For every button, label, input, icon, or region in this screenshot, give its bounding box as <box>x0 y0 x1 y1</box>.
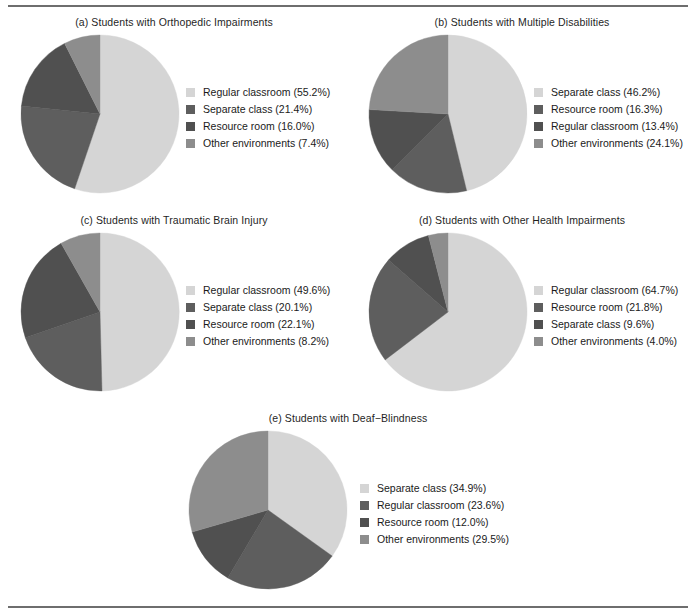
legend-item-label: Other environments (29.5%) <box>377 534 509 545</box>
legend-swatch-icon <box>534 105 543 114</box>
legend-item[interactable]: Regular classroom (64.7%) <box>534 282 678 299</box>
legend-swatch-icon <box>534 303 543 312</box>
panel-title-a: (a) Students with Orthopedic Impairments <box>0 16 348 28</box>
legend-item-label: Regular classroom (64.7%) <box>551 285 678 296</box>
pie-panel-b: (b) Students with Multiple DisabilitiesS… <box>348 16 696 206</box>
pie-chart-a <box>0 32 185 196</box>
legend-swatch-icon <box>186 337 195 346</box>
legend-item[interactable]: Regular classroom (49.6%) <box>186 282 330 299</box>
legend-item[interactable]: Separate class (46.2%) <box>534 84 683 101</box>
legend-item[interactable]: Separate class (9.6%) <box>534 316 678 333</box>
top-divider-rule <box>8 5 688 7</box>
pie-slice <box>369 35 448 114</box>
legend-e: Separate class (34.9%)Regular classroom … <box>360 480 509 548</box>
panel-title-d: (d) Students with Other Health Impairmen… <box>348 214 696 226</box>
pie-panel-e: (e) Students with Deaf−BlindnessSeparate… <box>174 412 522 602</box>
legend-item-label: Resource room (16.3%) <box>551 104 662 115</box>
legend-swatch-icon <box>186 286 195 295</box>
legend-swatch-icon <box>534 286 543 295</box>
bottom-divider-rule <box>8 606 688 608</box>
legend-item[interactable]: Regular classroom (23.6%) <box>360 497 509 514</box>
legend-item-label: Regular classroom (55.2%) <box>203 87 330 98</box>
legend-a: Regular classroom (55.2%)Separate class … <box>186 84 330 152</box>
legend-c: Regular classroom (49.6%)Separate class … <box>186 282 330 350</box>
legend-item[interactable]: Separate class (20.1%) <box>186 299 330 316</box>
legend-item-label: Separate class (9.6%) <box>551 319 654 330</box>
legend-item[interactable]: Other environments (29.5%) <box>360 531 509 548</box>
legend-swatch-icon <box>186 88 195 97</box>
legend-item[interactable]: Other environments (8.2%) <box>186 333 330 350</box>
panel-title-c: (c) Students with Traumatic Brain Injury <box>0 214 348 226</box>
legend-swatch-icon <box>360 535 369 544</box>
legend-swatch-icon <box>186 320 195 329</box>
pie-panel-c: (c) Students with Traumatic Brain Injury… <box>0 214 348 404</box>
pie-chart-d <box>348 230 533 394</box>
legend-swatch-icon <box>186 122 195 131</box>
legend-swatch-icon <box>186 105 195 114</box>
legend-item[interactable]: Resource room (16.0%) <box>186 118 330 135</box>
legend-item[interactable]: Regular classroom (13.4%) <box>534 118 683 135</box>
legend-item[interactable]: Other environments (4.0%) <box>534 333 678 350</box>
legend-swatch-icon <box>534 122 543 131</box>
pie-slice <box>100 233 179 391</box>
pie-panel-d: (d) Students with Other Health Impairmen… <box>348 214 696 404</box>
panel-title-b: (b) Students with Multiple Disabilities <box>348 16 696 28</box>
legend-item-label: Separate class (20.1%) <box>203 302 312 313</box>
legend-swatch-icon <box>534 337 543 346</box>
legend-swatch-icon <box>360 484 369 493</box>
legend-item-label: Resource room (12.0%) <box>377 517 488 528</box>
legend-swatch-icon <box>186 303 195 312</box>
legend-swatch-icon <box>186 139 195 148</box>
legend-item-label: Regular classroom (49.6%) <box>203 285 330 296</box>
legend-b: Separate class (46.2%)Resource room (16.… <box>534 84 683 152</box>
legend-item[interactable]: Resource room (21.8%) <box>534 299 678 316</box>
legend-item[interactable]: Regular classroom (55.2%) <box>186 84 330 101</box>
legend-swatch-icon <box>534 88 543 97</box>
legend-item[interactable]: Resource room (22.1%) <box>186 316 330 333</box>
legend-item[interactable]: Separate class (21.4%) <box>186 101 330 118</box>
legend-item-label: Resource room (21.8%) <box>551 302 662 313</box>
legend-item[interactable]: Separate class (34.9%) <box>360 480 509 497</box>
legend-item-label: Separate class (34.9%) <box>377 483 486 494</box>
legend-item[interactable]: Other environments (7.4%) <box>186 135 330 152</box>
legend-item-label: Other environments (24.1%) <box>551 138 683 149</box>
legend-item-label: Other environments (4.0%) <box>551 336 677 347</box>
legend-item-label: Regular classroom (23.6%) <box>377 500 504 511</box>
pie-panel-a: (a) Students with Orthopedic Impairments… <box>0 16 348 206</box>
legend-item-label: Other environments (8.2%) <box>203 336 329 347</box>
legend-item[interactable]: Resource room (12.0%) <box>360 514 509 531</box>
legend-d: Regular classroom (64.7%)Resource room (… <box>534 282 678 350</box>
legend-item-label: Separate class (46.2%) <box>551 87 660 98</box>
pie-chart-e <box>174 428 353 592</box>
pie-chart-c <box>0 230 185 394</box>
legend-item[interactable]: Other environments (24.1%) <box>534 135 683 152</box>
legend-item-label: Separate class (21.4%) <box>203 104 312 115</box>
legend-item-label: Resource room (16.0%) <box>203 121 314 132</box>
legend-swatch-icon <box>534 320 543 329</box>
legend-item-label: Resource room (22.1%) <box>203 319 314 330</box>
pie-chart-b <box>348 32 533 196</box>
legend-item-label: Regular classroom (13.4%) <box>551 121 678 132</box>
panel-title-e: (e) Students with Deaf−Blindness <box>174 412 522 424</box>
legend-swatch-icon <box>360 501 369 510</box>
legend-item[interactable]: Resource room (16.3%) <box>534 101 683 118</box>
legend-item-label: Other environments (7.4%) <box>203 138 329 149</box>
legend-swatch-icon <box>534 139 543 148</box>
legend-swatch-icon <box>360 518 369 527</box>
